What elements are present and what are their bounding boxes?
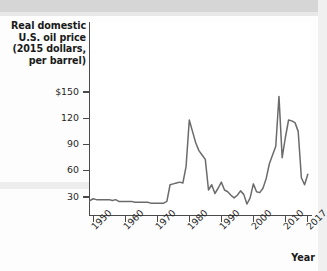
page-scan-artifact — [0, 182, 90, 189]
y-tick-label: 30 — [67, 191, 79, 202]
y-tick-label: $150 — [55, 86, 79, 97]
x-axis-title: Year — [291, 252, 315, 263]
y-tick-mark — [83, 170, 89, 171]
y-tick-label: 60 — [67, 164, 79, 175]
chart-title-line-2: U.S. oil price — [2, 32, 86, 44]
y-tick-mark — [83, 118, 89, 119]
chart-title-line-4: per barrel) — [2, 55, 86, 67]
y-tick-label: 90 — [67, 138, 79, 149]
page-top-band — [0, 0, 327, 12]
figure-page: Real domestic U.S. oil price (2015 dolla… — [0, 0, 327, 271]
plot-area — [90, 22, 311, 216]
chart-title-line-3: (2015 dollars, — [2, 43, 86, 55]
y-tick-mark — [83, 91, 89, 92]
chart-title: Real domestic U.S. oil price (2015 dolla… — [2, 20, 86, 66]
page-right-margin — [318, 0, 327, 271]
chart-title-line-1: Real domestic — [2, 20, 86, 32]
y-tick-mark — [83, 196, 89, 197]
y-tick-mark — [83, 144, 89, 145]
y-tick-label: 120 — [61, 112, 79, 123]
y-axis-line — [89, 22, 90, 216]
